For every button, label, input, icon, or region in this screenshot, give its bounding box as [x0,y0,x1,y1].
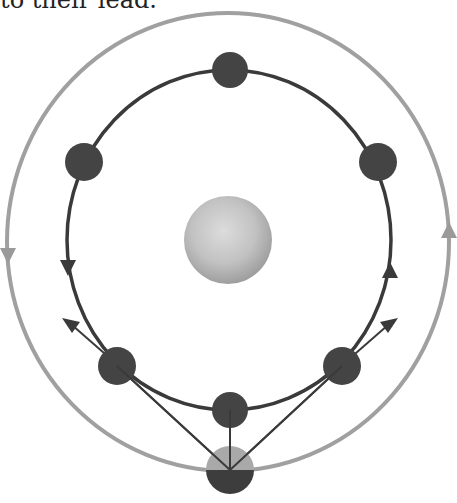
link-line-left-overlay [117,366,230,470]
inner-orbit-arrow-left [60,260,76,276]
outer-orbit-arrow-left [0,248,16,264]
satellite-upper-left [65,143,103,181]
satellite-upper-right [359,143,397,181]
central-body [184,196,272,284]
orbit-diagram [0,0,457,503]
inner-orbit-arrow-right [382,262,398,278]
satellite-top [212,52,248,88]
link-line-right-overlay [230,366,342,470]
outer-orbit-arrow-right [441,222,457,238]
